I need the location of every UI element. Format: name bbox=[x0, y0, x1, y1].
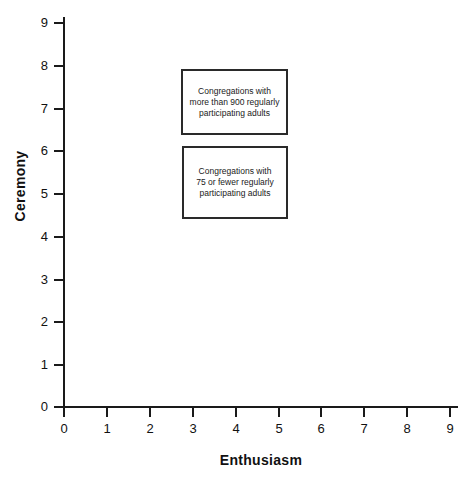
y-axis-line bbox=[63, 17, 65, 408]
x-axis-tick-mark bbox=[235, 408, 237, 417]
y-axis-tick-label: 2 bbox=[26, 314, 48, 330]
x-axis-tick-label: 6 bbox=[309, 421, 333, 437]
y-axis-tick-label: 8 bbox=[26, 58, 48, 74]
annotation-box-small-congregations: Congregations with 75 or fewer regularly… bbox=[182, 146, 288, 219]
y-axis-tick-label: 3 bbox=[26, 272, 48, 288]
y-axis-tick-mark bbox=[54, 406, 63, 408]
y-axis-tick-mark bbox=[54, 22, 63, 24]
x-axis-tick-label: 5 bbox=[267, 421, 291, 437]
annotation-text-small-congregations: Congregations with 75 or fewer regularly… bbox=[192, 166, 277, 199]
x-axis-tick-label: 2 bbox=[138, 421, 162, 437]
y-axis-tick-label: 5 bbox=[26, 186, 48, 202]
x-axis-tick-mark bbox=[320, 408, 322, 417]
x-axis-tick-label: 4 bbox=[224, 421, 248, 437]
x-axis-line bbox=[64, 406, 458, 408]
x-axis-tick-label: 3 bbox=[181, 421, 205, 437]
y-axis-tick-mark bbox=[54, 108, 63, 110]
y-axis-tick-label: 4 bbox=[26, 229, 48, 245]
x-axis-tick-mark bbox=[449, 408, 451, 417]
y-axis-tick-mark bbox=[54, 150, 63, 152]
x-axis-tick-label: 1 bbox=[95, 421, 119, 437]
x-axis-title: Enthusiasm bbox=[64, 452, 458, 468]
y-axis-tick-label: 0 bbox=[26, 399, 48, 415]
x-axis-tick-mark bbox=[149, 408, 151, 417]
x-axis-tick-mark bbox=[106, 408, 108, 417]
y-axis-tick-mark bbox=[54, 279, 63, 281]
y-axis-tick-mark bbox=[54, 236, 63, 238]
y-axis-tick-mark bbox=[54, 193, 63, 195]
x-axis-tick-label: 8 bbox=[395, 421, 419, 437]
y-axis-tick-mark bbox=[54, 65, 63, 67]
y-axis-tick-label: 7 bbox=[26, 101, 48, 117]
y-axis-title: Ceremony bbox=[12, 111, 28, 261]
x-axis-tick-label: 0 bbox=[52, 421, 76, 437]
x-axis-tick-mark bbox=[406, 408, 408, 417]
y-axis-tick-label: 9 bbox=[26, 15, 48, 31]
x-axis-tick-label: 7 bbox=[352, 421, 376, 437]
y-axis-tick-mark bbox=[54, 364, 63, 366]
x-axis-tick-mark bbox=[363, 408, 365, 417]
x-axis-tick-label: 9 bbox=[438, 421, 462, 437]
annotation-box-large-congregations: Congregations with more than 900 regular… bbox=[181, 69, 288, 135]
y-axis-tick-mark bbox=[54, 321, 63, 323]
x-axis-tick-mark bbox=[278, 408, 280, 417]
y-axis-tick-label: 1 bbox=[26, 357, 48, 373]
x-axis-tick-mark bbox=[192, 408, 194, 417]
scatter-plot-figure: 0123456789 9876543210 Enthusiasm Ceremon… bbox=[0, 0, 463, 481]
y-axis-tick-label: 6 bbox=[26, 143, 48, 159]
annotation-text-large-congregations: Congregations with more than 900 regular… bbox=[186, 86, 284, 119]
x-axis-tick-mark bbox=[63, 408, 65, 417]
